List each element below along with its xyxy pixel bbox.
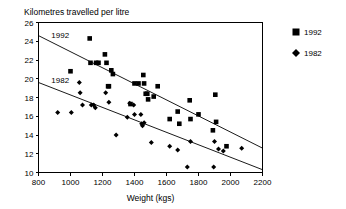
y-tick-label: 12 (25, 150, 34, 159)
series-1992 (68, 36, 229, 148)
data-point-square (224, 144, 229, 149)
data-point-square (68, 69, 73, 74)
y-tick-label: 24 (25, 37, 34, 46)
trendline-label-1982: 1982 (51, 76, 69, 85)
data-point-square (155, 84, 160, 89)
data-point-diamond (216, 147, 221, 152)
data-point-diamond (55, 110, 60, 115)
data-point-square (188, 117, 193, 122)
data-point-square (214, 120, 219, 125)
y-tick-label: 10 (25, 169, 34, 178)
data-point-square (151, 94, 156, 99)
data-point-square (142, 81, 147, 86)
trendline-label-1992: 1992 (51, 31, 69, 40)
data-point-square (111, 72, 116, 77)
x-tick-label: 2200 (254, 178, 272, 187)
trendline-1992 (39, 36, 263, 149)
legend-item-1992: 1992 (293, 28, 323, 37)
data-point-square (96, 61, 101, 66)
legend-item-1982: 1982 (292, 49, 322, 58)
x-tick-label: 1600 (158, 178, 176, 187)
data-point-diamond (212, 139, 217, 144)
data-point-diamond (77, 80, 82, 85)
legend-label: 1982 (304, 49, 322, 58)
y-tick-label: 16 (25, 112, 34, 121)
trendline-1982 (39, 83, 263, 170)
data-point-square (136, 81, 141, 86)
axes-group (39, 23, 263, 173)
data-point-diamond (211, 164, 216, 169)
x-tick-label: 1800 (190, 178, 208, 187)
y-tick-label: 20 (25, 75, 34, 84)
legend-label: 1992 (304, 28, 322, 37)
data-point-square (87, 36, 92, 41)
data-point-square (211, 128, 216, 133)
data-point-diamond (239, 146, 244, 151)
data-point-square (103, 52, 108, 57)
x-axis-title: Weight (kgs) (127, 193, 175, 203)
data-point-square (146, 97, 151, 102)
data-point-diamond (138, 112, 143, 117)
y-tick-label: 26 (25, 19, 34, 28)
x-tick-label: 2000 (222, 178, 240, 187)
data-point-diamond (149, 140, 154, 145)
data-point-diamond (78, 90, 83, 95)
data-point-square (132, 81, 137, 86)
data-point-square (141, 73, 146, 78)
data-point-square (187, 98, 192, 103)
ticks-group: 1012141618202224268001000120014001600180… (25, 19, 272, 187)
x-tick-label: 1000 (62, 178, 80, 187)
data-point-diamond (125, 115, 130, 120)
scatter-chart: Kilometres travelled per litre 101214161… (0, 0, 346, 209)
chart-title: Kilometres travelled per litre (24, 7, 130, 17)
x-tick-label: 1200 (94, 178, 112, 187)
y-tick-label: 22 (25, 56, 34, 65)
legend-marker-diamond (292, 49, 300, 57)
trendlines-group (39, 36, 263, 170)
data-point-diamond (114, 133, 119, 138)
chart-title-group: Kilometres travelled per litre (24, 7, 130, 17)
data-point-diamond (69, 110, 74, 115)
data-point-square (175, 109, 180, 114)
chart-canvas: Kilometres travelled per litre 101214161… (0, 0, 346, 209)
data-point-square (104, 61, 109, 66)
data-points-group (55, 36, 244, 169)
data-point-square (213, 92, 218, 97)
data-point-square (145, 91, 150, 96)
data-point-diamond (185, 164, 190, 169)
legend: 19921982 (292, 28, 322, 58)
x-axis-title-group: Weight (kgs) (127, 193, 175, 203)
data-point-diamond (132, 112, 137, 117)
data-point-diamond (103, 90, 108, 95)
data-point-square (88, 61, 93, 66)
data-point-diamond (106, 100, 111, 105)
data-point-diamond (175, 148, 180, 153)
y-tick-label: 18 (25, 94, 34, 103)
x-tick-label: 800 (32, 178, 46, 187)
data-point-square (177, 121, 182, 126)
legend-marker-square (293, 29, 300, 36)
data-point-diamond (80, 103, 85, 108)
data-point-diamond (221, 148, 226, 153)
data-point-square (167, 117, 172, 122)
y-tick-label: 14 (25, 131, 34, 140)
series-annotations-group: 19921982 (51, 31, 69, 84)
data-point-square (196, 112, 201, 117)
x-tick-label: 1400 (126, 178, 144, 187)
data-point-diamond (188, 139, 193, 144)
data-point-diamond (167, 144, 172, 149)
data-point-square (107, 84, 112, 89)
